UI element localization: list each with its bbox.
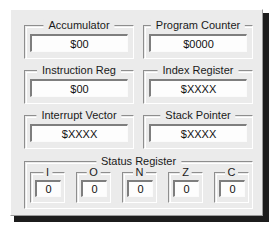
program-counter-label: Program Counter [151, 19, 245, 31]
cpu-register-panel-screenshot: Accumulator $00 Program Counter $0000 In… [0, 0, 274, 227]
flag-n-value-field[interactable]: 0 [127, 180, 153, 197]
interrupt-vector-label: Interrupt Vector [36, 109, 121, 121]
flag-o-group: O 0 [76, 172, 111, 203]
flag-z-label: Z [179, 166, 192, 178]
index-register-group: Index Register $XXXX [143, 70, 253, 104]
interrupt-vector-group: Interrupt Vector $XXXX [24, 115, 134, 149]
accumulator-value-field[interactable]: $00 [30, 34, 128, 52]
flag-o-value-field[interactable]: 0 [81, 180, 107, 197]
flag-i-group: I 0 [30, 172, 65, 203]
flag-z-group: Z 0 [168, 172, 203, 203]
program-counter-group: Program Counter $0000 [143, 25, 253, 59]
instruction-reg-label: Instruction Reg [37, 64, 121, 76]
register-panel-inner: Accumulator $00 Program Counter $0000 In… [14, 13, 259, 212]
stack-pointer-group: Stack Pointer $XXXX [143, 115, 253, 149]
instruction-reg-group: Instruction Reg $00 [24, 70, 134, 104]
flag-o-label: O [86, 166, 101, 178]
accumulator-group: Accumulator $00 [24, 25, 134, 59]
accumulator-label: Accumulator [43, 19, 114, 31]
flag-c-value-field[interactable]: 0 [219, 180, 245, 197]
flag-n-label: N [133, 166, 147, 178]
program-counter-value-field[interactable]: $0000 [149, 34, 247, 52]
stack-pointer-label: Stack Pointer [160, 109, 235, 121]
flag-i-value-field[interactable]: 0 [35, 180, 61, 197]
index-register-value-field[interactable]: $XXXX [149, 79, 247, 97]
flag-c-label: C [225, 166, 239, 178]
interrupt-vector-value-field[interactable]: $XXXX [30, 124, 128, 142]
register-panel: Accumulator $00 Program Counter $0000 In… [10, 9, 263, 216]
flag-i-label: I [43, 166, 52, 178]
index-register-label: Index Register [158, 64, 239, 76]
status-flag-row: I 0 O 0 N 0 Z 0 [30, 172, 249, 204]
flag-c-group: C 0 [214, 172, 249, 203]
instruction-reg-value-field[interactable]: $00 [30, 79, 128, 97]
stack-pointer-value-field[interactable]: $XXXX [149, 124, 247, 142]
flag-n-group: N 0 [122, 172, 157, 203]
status-register-group: Status Register I 0 O 0 N 0 [24, 161, 253, 209]
flag-z-value-field[interactable]: 0 [173, 180, 199, 197]
